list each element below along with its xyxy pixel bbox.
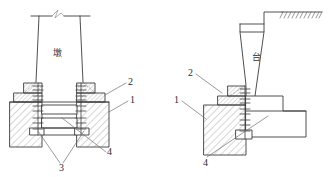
foundation-block-left	[10, 102, 42, 147]
drawing-svg	[0, 0, 329, 177]
pier-body-label: 墩	[53, 49, 62, 58]
left-callout-1: 1	[130, 95, 135, 105]
right-callout-4: 4	[203, 158, 208, 168]
left-callout-2: 2	[128, 77, 133, 87]
right-callout-2: 2	[188, 68, 193, 78]
lower-girder-span	[44, 128, 75, 135]
jacking-girder-lower	[42, 118, 77, 128]
abutment-body-label: 台	[252, 53, 261, 62]
pier-break-symbol	[31, 10, 90, 18]
engineering-drawing-canvas: 墩 台 2 1 3 4 2 1 4	[0, 0, 329, 177]
foundation-block-right	[77, 102, 109, 147]
right-callout-1: 1	[174, 95, 179, 105]
left-callout-4: 4	[107, 147, 112, 157]
ground-hatch-ticks	[280, 12, 322, 18]
abutment-back-wall	[240, 12, 282, 32]
abutment-footing-ledge	[246, 96, 306, 137]
left-callout-3: 3	[59, 163, 64, 173]
jacking-girder-upper	[42, 105, 77, 114]
